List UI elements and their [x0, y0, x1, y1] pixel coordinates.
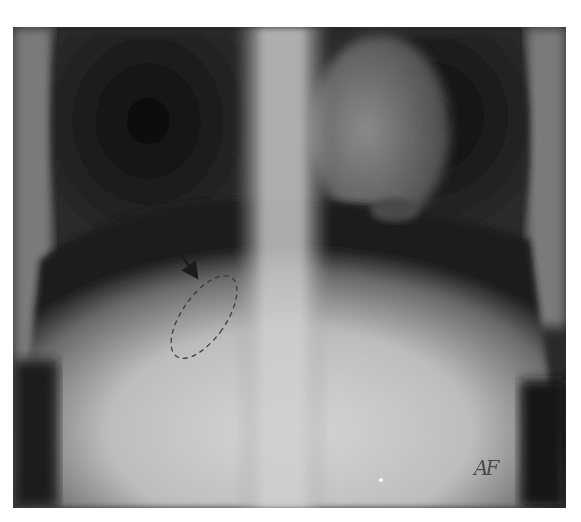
side-marker-label: AF [474, 456, 496, 480]
xray-image [13, 27, 566, 508]
xray-render [13, 27, 566, 508]
